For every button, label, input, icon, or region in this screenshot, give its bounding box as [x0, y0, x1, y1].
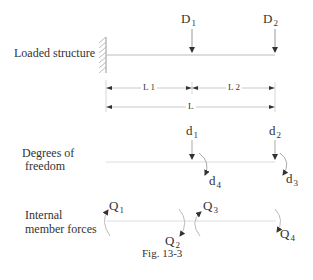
load-label-d2: D2: [263, 12, 278, 25]
dof-label-d3: d3: [286, 172, 298, 185]
structure-diagram: [0, 0, 313, 280]
force-label-q2: Q2: [165, 234, 180, 247]
load-label-d1: D1: [181, 12, 196, 25]
force-label-q3: Q3: [203, 199, 218, 212]
force-label-q1: Q1: [109, 199, 124, 212]
moment-arrow-q3: [195, 212, 201, 236]
forces-label-line1: Internal: [25, 209, 62, 221]
force-label-q4: Q4: [280, 227, 295, 240]
rotation-arrow-d4: [199, 153, 207, 175]
dimension-label-l2: L 2: [226, 83, 242, 92]
moment-arrow-q2: [179, 209, 185, 236]
loaded-structure-label: Loaded structure: [14, 47, 95, 59]
figure-caption: Fig. 13-3: [142, 248, 182, 259]
dof-label-d1: d1: [186, 124, 198, 137]
dimension-label-l: L: [186, 102, 196, 111]
dof-label-line1: Degrees of: [22, 147, 74, 159]
moment-arrow-q1: [104, 210, 110, 236]
dof-label-line2: freedom: [25, 160, 65, 172]
dof-label-d4: d4: [209, 174, 221, 187]
forces-label-line2: member forces: [25, 223, 97, 235]
dimension-label-l1: L 1: [141, 83, 157, 92]
fixed-support-icon: [99, 37, 106, 73]
dof-label-d2: d2: [269, 124, 281, 137]
